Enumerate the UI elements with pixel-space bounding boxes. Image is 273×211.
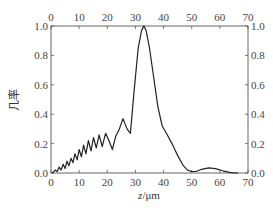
probability-chart: 010203040506070 010203040506070 0.00.20.… xyxy=(0,0,273,211)
x-tick-label: 50 xyxy=(186,176,198,188)
y-tick-label-right: 0.0 xyxy=(251,167,265,179)
x-tick-label: 10 xyxy=(74,176,86,188)
x-tick-label: 0 xyxy=(48,176,54,188)
x-tick-label: 30 xyxy=(130,176,142,188)
x-tick-label-top: 60 xyxy=(214,11,226,23)
y-tick-label-right: 0.2 xyxy=(251,138,265,150)
y-tick-labels-right: 0.00.20.40.60.81.0 xyxy=(251,20,265,179)
x-tick-label-top: 0 xyxy=(48,11,54,23)
y-tick-label-right: 0.4 xyxy=(251,108,265,120)
y-tick-labels-left: 0.00.20.40.60.81.0 xyxy=(34,20,48,179)
y-axis-title: 几率 xyxy=(7,89,20,111)
probability-curve xyxy=(52,26,238,173)
x-tick-label: 60 xyxy=(214,176,226,188)
y-tick-label: 0.4 xyxy=(34,108,48,120)
x-tick-label: 20 xyxy=(102,176,114,188)
y-tick-label: 0.0 xyxy=(34,167,48,179)
x-tick-label-top: 20 xyxy=(102,11,114,23)
x-tick-label-top: 30 xyxy=(130,11,142,23)
x-tick-labels-bottom: 010203040506070 xyxy=(48,176,254,188)
y-tick-label-right: 1.0 xyxy=(251,20,265,32)
y-tick-label: 1.0 xyxy=(34,20,48,32)
x-tick-label-top: 40 xyxy=(158,11,170,23)
y-tick-label: 0.2 xyxy=(34,138,48,150)
x-tick-label-top: 10 xyxy=(74,11,86,23)
x-tick-labels-top: 010203040506070 xyxy=(48,11,254,23)
y-tick-label-right: 0.8 xyxy=(251,49,265,61)
x-tick-label: 40 xyxy=(158,176,170,188)
x-axis-title: z/μm xyxy=(137,189,160,201)
x-tick-label-top: 50 xyxy=(186,11,198,23)
y-tick-label: 0.8 xyxy=(34,49,48,61)
y-tick-label-right: 0.6 xyxy=(251,79,265,91)
y-tick-label: 0.6 xyxy=(34,79,48,91)
